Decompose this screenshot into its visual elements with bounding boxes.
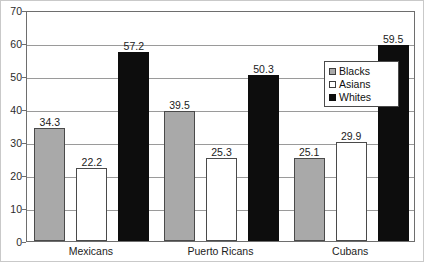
data-label-asians-cubans: 29.9 <box>329 131 374 142</box>
y-tick-label-0: 0 <box>1 237 22 248</box>
gridline-40 <box>27 111 414 112</box>
y-tick-label-30: 30 <box>1 138 22 149</box>
bar-chart: 706050403020100 34.322.257.239.525.350.3… <box>0 0 424 262</box>
category-label-mexicans: Mexicans <box>26 245 156 257</box>
data-label-blacks-puerto-ricans: 39.5 <box>157 100 202 111</box>
y-tick-label-50: 50 <box>1 72 22 83</box>
legend-label-whites: Whites <box>339 92 371 103</box>
y-tick-label-60: 60 <box>1 39 22 50</box>
plot-area: 34.322.257.239.525.350.325.129.959.5 Bla… <box>26 11 415 242</box>
bar-whites-mexicans <box>118 52 149 241</box>
data-label-asians-puerto-ricans: 25.3 <box>199 147 244 158</box>
data-label-whites-puerto-ricans: 50.3 <box>241 64 286 75</box>
bar-blacks-mexicans <box>34 128 65 241</box>
gridline-60 <box>27 45 414 46</box>
data-label-blacks-cubans: 25.1 <box>287 147 332 158</box>
y-tick-label-70: 70 <box>1 6 22 17</box>
data-label-asians-mexicans: 22.2 <box>69 157 114 168</box>
legend-swatch-whites <box>329 94 336 101</box>
category-label-puerto-ricans: Puerto Ricans <box>156 245 286 257</box>
legend-swatch-blacks <box>329 68 336 75</box>
y-tick-label-40: 40 <box>1 105 22 116</box>
legend-item-whites[interactable]: Whites <box>329 91 394 103</box>
legend-label-blacks: Blacks <box>339 66 370 77</box>
bar-blacks-puerto-ricans <box>164 111 195 241</box>
category-label-cubans: Cubans <box>285 245 415 257</box>
legend-label-asians: Asians <box>339 79 371 90</box>
bar-asians-puerto-ricans <box>206 158 237 241</box>
data-label-whites-mexicans: 57.2 <box>111 41 156 52</box>
y-tick-mark-0 <box>22 242 26 243</box>
bar-asians-cubans <box>336 142 367 241</box>
legend-swatch-asians <box>329 81 336 88</box>
legend-item-asians[interactable]: Asians <box>329 78 394 90</box>
bar-blacks-cubans <box>294 158 325 241</box>
bar-asians-mexicans <box>76 168 107 241</box>
data-label-blacks-mexicans: 34.3 <box>27 117 72 128</box>
bar-whites-puerto-ricans <box>248 75 279 241</box>
legend-item-blacks[interactable]: Blacks <box>329 65 394 77</box>
y-tick-label-10: 10 <box>1 204 22 215</box>
data-label-whites-cubans: 59.5 <box>371 34 416 45</box>
legend[interactable]: Blacks Asians Whites <box>324 61 399 107</box>
y-tick-label-20: 20 <box>1 171 22 182</box>
